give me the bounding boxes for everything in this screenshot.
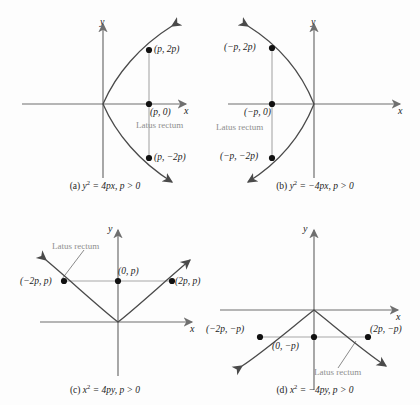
- latus-rectum-leader: [62, 250, 84, 279]
- caption-rhs: = −4px, p > 0: [297, 181, 354, 191]
- point-lower-endpoint: [269, 155, 275, 161]
- label-focus: (p, 0): [150, 108, 171, 118]
- label-right-endpoint: (2p, −p): [370, 325, 402, 335]
- point-focus: [311, 334, 317, 340]
- panel-d: y x (−2p, −p) (0, −p) (2p, −p) Latus rec…: [210, 200, 420, 405]
- latus-rectum-label: Latus rectum: [216, 123, 263, 132]
- panel-c-caption: (c) x2 = 4py, p > 0: [0, 386, 210, 396]
- y-axis-label: y: [303, 224, 307, 234]
- x-axis-label: x: [184, 106, 188, 116]
- x-axis-label: x: [398, 106, 402, 116]
- y-axis-label: y: [108, 224, 112, 234]
- label-upper-endpoint: (−p, 2p): [224, 43, 256, 53]
- point-focus: [115, 278, 121, 284]
- caption-prefix: (c): [70, 385, 83, 395]
- panel-a-graphic: [0, 0, 210, 202]
- label-lower-endpoint: (p, −2p): [154, 153, 186, 163]
- parabola-figure: y x (p, 2p) (p, 0) (p, −2p) Latus rectum…: [0, 0, 420, 405]
- x-axis-label: x: [190, 324, 194, 334]
- point-left-endpoint: [61, 278, 67, 284]
- label-right-endpoint: (2p, p): [175, 277, 200, 287]
- caption-prefix: (b): [276, 181, 289, 191]
- y-axis-label: y: [311, 17, 315, 27]
- panel-a-caption: (a) y2 = 4px, p > 0: [0, 182, 210, 192]
- latus-rectum-leader: [338, 341, 356, 368]
- latus-rectum-label: Latus rectum: [52, 242, 99, 251]
- caption-prefix: (a): [70, 181, 83, 191]
- point-upper-endpoint: [146, 47, 152, 53]
- latus-rectum-label: Latus rectum: [314, 368, 361, 377]
- label-left-endpoint: (−2p, p): [20, 277, 52, 287]
- caption-rhs: = −4py, p > 0: [297, 385, 353, 395]
- panel-c-graphic: [0, 200, 210, 405]
- panel-b-caption: (b) y2 = −4px, p > 0: [210, 182, 420, 192]
- latus-rectum-label: Latus rectum: [136, 121, 183, 130]
- label-upper-endpoint: (p, 2p): [154, 45, 179, 55]
- panel-b-graphic: [210, 0, 420, 202]
- point-lower-endpoint: [146, 155, 152, 161]
- point-upper-endpoint: [269, 45, 275, 51]
- x-axis-label: x: [396, 312, 400, 322]
- panel-c: y x (−2p, p) (0, p) (2p, p) Latus rectum…: [0, 200, 210, 405]
- y-axis-label: y: [100, 17, 104, 27]
- label-focus: (0, p): [118, 267, 139, 277]
- label-left-endpoint: (−2p, −p): [206, 325, 244, 335]
- point-left-endpoint: [257, 334, 263, 340]
- label-lower-endpoint: (−p, −2p): [220, 152, 258, 162]
- label-focus: (0, −p): [272, 342, 299, 352]
- caption-rhs: = 4px, p > 0: [90, 181, 140, 191]
- point-right-endpoint: [365, 334, 371, 340]
- panel-d-caption: (d) x2 = −4py, p > 0: [210, 386, 420, 396]
- panel-b: y x (−p, 2p) (−p, 0) (−p, −2p) Latus rec…: [210, 0, 420, 202]
- panel-a: y x (p, 2p) (p, 0) (p, −2p) Latus rectum…: [0, 0, 210, 202]
- label-focus: (−p, 0): [244, 108, 271, 118]
- caption-prefix: (d): [276, 385, 289, 395]
- caption-rhs: = 4py, p > 0: [90, 385, 140, 395]
